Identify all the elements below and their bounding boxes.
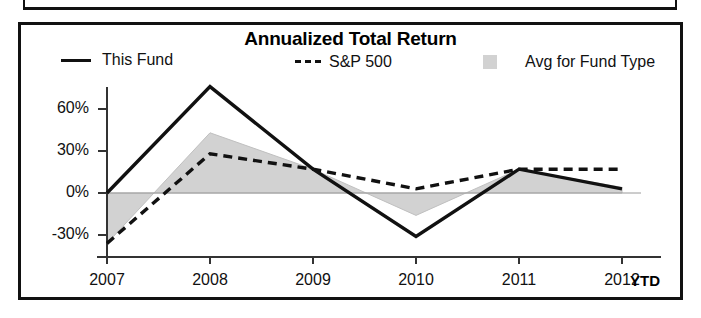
y-axis-label-2: 0%: [27, 183, 89, 201]
x-axis-label-2010: 2010: [383, 271, 449, 289]
x-axis-label-2007: 2007: [74, 271, 140, 289]
y-axis-label-1: 30%: [27, 141, 89, 159]
plot-area: [21, 25, 686, 297]
y-axis-label-0: 60%: [27, 99, 89, 117]
x-axis-label-2011: 2011: [486, 271, 552, 289]
x-axis-label-2008: 2008: [177, 271, 243, 289]
plot-svg: [21, 25, 686, 297]
x-axis-ticks: [107, 257, 622, 264]
above-panel-bottom-edge: [23, 0, 677, 10]
y-axis-label-3: -30%: [27, 225, 89, 243]
x-axis-ytd-note: YTD: [630, 272, 660, 289]
y-axis-ticks: [98, 109, 107, 235]
x-axis-label-2009: 2009: [280, 271, 346, 289]
avg-fund-type-band: [107, 133, 622, 244]
annualized-total-return-chart-panel: Annualized Total Return This Fund S&P 50…: [18, 22, 683, 300]
